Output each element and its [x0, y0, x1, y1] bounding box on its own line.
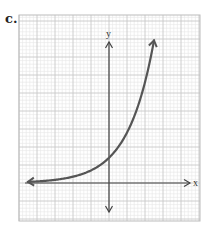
x-axis-label: x [193, 177, 198, 188]
y-axis-label: y [106, 28, 111, 39]
graph: x y [0, 0, 217, 236]
y-axis: y [106, 28, 113, 212]
